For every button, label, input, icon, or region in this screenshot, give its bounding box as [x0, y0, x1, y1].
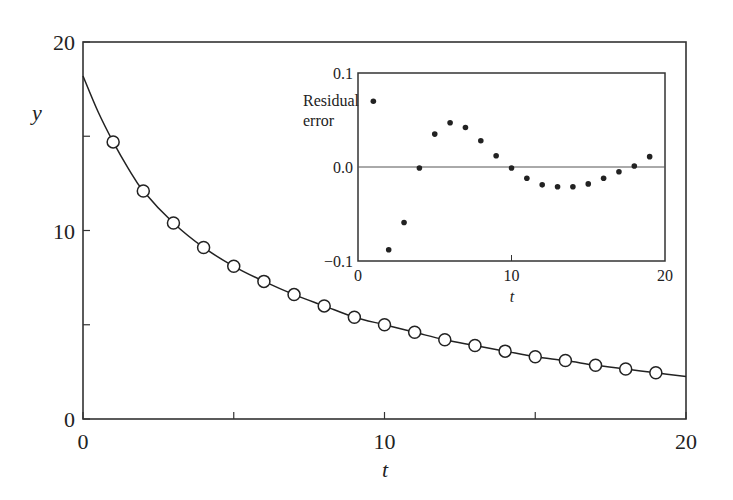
residual-point-dot — [493, 153, 499, 159]
residual-point-dot — [478, 138, 484, 144]
y-tick-label: 0 — [64, 407, 75, 432]
residual-point-dot — [647, 154, 653, 160]
data-point-open-circle — [469, 339, 481, 351]
x-tick-label: 20 — [675, 429, 697, 454]
residual-point-dot — [616, 169, 622, 175]
data-point-open-circle — [198, 241, 210, 253]
inset-x-tick-label: 10 — [504, 267, 520, 284]
data-point-open-circle — [650, 367, 662, 379]
residual-point-dot — [570, 184, 576, 190]
y-tick-label: 20 — [53, 30, 75, 55]
inset-y-tick-label: −0.1 — [324, 253, 353, 270]
residual-point-dot — [401, 220, 407, 226]
data-point-open-circle — [499, 345, 511, 357]
inset-x-axis-title: t — [510, 288, 515, 305]
inset-y-tick-label: 0.0 — [333, 159, 353, 176]
data-point-open-circle — [439, 334, 451, 346]
data-point-open-circle — [288, 289, 300, 301]
y-tick-label: 10 — [53, 219, 75, 244]
residual-point-dot — [463, 125, 469, 131]
x-tick-label: 10 — [374, 429, 396, 454]
data-point-open-circle — [167, 217, 179, 229]
residual-point-dot — [447, 120, 453, 126]
data-point-open-circle — [348, 311, 360, 323]
residual-point-dot — [632, 163, 638, 169]
chart-canvas: 0102001020ty 01020−0.10.00.1tResidualerr… — [0, 0, 733, 500]
data-point-open-circle — [137, 185, 149, 197]
inset-y-tick-label: 0.1 — [333, 65, 353, 82]
residual-point-dot — [509, 165, 515, 171]
inset-y-axis-title-line: Residual — [303, 92, 360, 109]
residual-point-dot — [386, 247, 392, 253]
residual-point-dot — [432, 131, 438, 137]
data-point-open-circle — [107, 136, 119, 148]
residual-point-dot — [371, 98, 377, 104]
inset-residual-plot: 01020−0.10.00.1tResidualerror — [303, 65, 673, 305]
residual-point-dot — [524, 175, 530, 181]
data-point-open-circle — [379, 319, 391, 331]
data-point-open-circle — [590, 359, 602, 371]
residual-point-dot — [555, 184, 561, 190]
inset-y-axis-title-line: error — [303, 112, 335, 129]
data-point-open-circle — [559, 355, 571, 367]
x-axis-title: t — [382, 457, 389, 482]
data-point-open-circle — [228, 260, 240, 272]
x-tick-label: 0 — [78, 429, 89, 454]
residual-point-dot — [539, 182, 545, 188]
inset-x-tick-label: 0 — [354, 267, 362, 284]
data-point-open-circle — [318, 300, 330, 312]
inset-x-tick-label: 20 — [657, 267, 673, 284]
residual-point-dot — [601, 175, 607, 181]
data-point-open-circle — [409, 326, 421, 338]
residual-point-dot — [417, 165, 423, 171]
residual-point-dot — [585, 181, 591, 187]
data-point-open-circle — [529, 351, 541, 363]
y-axis-title: y — [30, 100, 42, 125]
data-point-open-circle — [620, 363, 632, 375]
data-point-open-circle — [258, 275, 270, 287]
